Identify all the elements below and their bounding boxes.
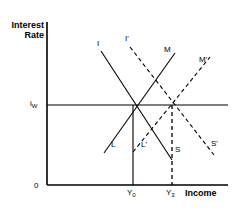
curve-label-L-prime: L' — [141, 140, 147, 149]
tick-label-y3: Y3 — [166, 188, 175, 197]
curve-label-S: S — [175, 145, 180, 154]
is-lm-open-economy-diagram: Interest Rate Income 0 iW Y0 Y3 I I' L L… — [0, 0, 233, 211]
curve-label-I-prime: I' — [125, 34, 129, 43]
curve-label-I: I — [97, 39, 99, 48]
curve-L-M — [104, 53, 175, 153]
x-axis-title: Income — [185, 188, 217, 198]
tick-label-y3-sub: 3 — [171, 192, 174, 198]
origin-label: 0 — [34, 181, 38, 190]
curve-label-M: M — [164, 45, 171, 54]
curve-label-M-prime: M' — [199, 55, 207, 64]
curve-label-S-prime: S' — [211, 139, 218, 148]
y-axis-title: Interest Rate — [4, 20, 44, 40]
tick-label-y0: Y0 — [127, 188, 136, 197]
tick-label-iw-sub: W — [32, 103, 38, 109]
tick-label-y0-sub: 0 — [132, 192, 135, 198]
curve-label-L: L — [111, 140, 115, 149]
tick-label-iw: iW — [30, 99, 37, 108]
